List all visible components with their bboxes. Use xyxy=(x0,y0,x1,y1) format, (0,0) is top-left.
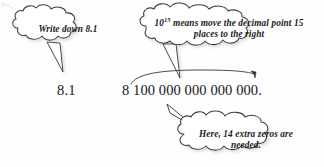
callout-extra-zeros-label: Here, 14 extra zeros are needed. xyxy=(188,129,304,151)
power-remainder: means move the decimal point 15 places t… xyxy=(171,18,304,39)
figure-canvas: Write down 8.1 1015 means move the decim… xyxy=(0,0,324,167)
callout-write-down-label: Write down 8.1 xyxy=(22,24,114,35)
callout-write-down-tail xyxy=(47,42,63,72)
callout-power-explanation-label: 1015 means move the decimal point 15 pla… xyxy=(150,16,308,40)
sweep-arc-arrowhead xyxy=(251,71,256,78)
expanded-number-value: 8 100 000 000 000 000. xyxy=(122,82,262,99)
left-number-value: 8.1 xyxy=(57,82,76,99)
scan-artifact-mark xyxy=(1,2,12,8)
power-base: 10 xyxy=(155,18,165,28)
callout-write-down xyxy=(13,5,76,72)
callout-power-explanation xyxy=(140,3,249,78)
callout-power-explanation-tail xyxy=(163,44,180,78)
power-exponent: 15 xyxy=(164,16,171,23)
